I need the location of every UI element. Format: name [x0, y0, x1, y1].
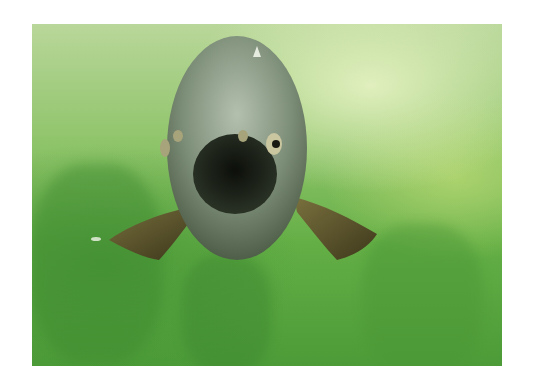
fish	[32, 24, 502, 366]
fish-photo	[32, 24, 502, 366]
